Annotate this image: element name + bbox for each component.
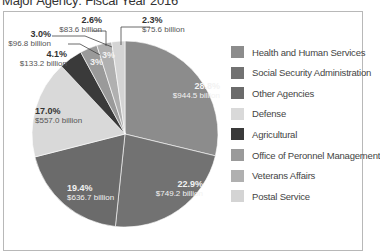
label-ssa: 22.9% $749.2 billion (143, 179, 203, 199)
legend-item-hhs: Health and Human Services (231, 45, 365, 59)
label-agri: 4.1% $133.2 billion (5, 49, 67, 69)
label-va-inner: 3% (102, 48, 115, 60)
label-postal: 2.3% $75.6 billion (142, 15, 185, 35)
label-opm-value: $96.8 billion (3, 39, 51, 49)
legend-swatch (231, 190, 244, 202)
legend-swatch (231, 108, 244, 120)
legend-swatch (231, 46, 244, 58)
label-defense: 17.0% $557.0 billion (35, 106, 82, 126)
legend-swatch (231, 87, 244, 99)
label-va-value: $83.6 billion (52, 25, 102, 35)
label-other: 19.4% $636.7 billion (67, 183, 114, 203)
legend-item-va: Veterans Affairs (231, 169, 315, 183)
legend-swatch (231, 67, 244, 79)
legend-item-other: Other Agencies (231, 86, 314, 100)
label-other-value: $636.7 billion (67, 193, 114, 203)
legend-swatch (231, 170, 244, 182)
label-ssa-percent: 22.9% (143, 179, 203, 189)
label-hhs-value: $944.5 billion (163, 91, 220, 101)
label-postal-percent: 2.3% (142, 15, 185, 25)
legend-item-postal: Postal Service (231, 189, 310, 203)
label-other-percent: 19.4% (67, 183, 114, 193)
legend-item-ssa: Social Security Administration (231, 66, 371, 80)
label-agri-percent: 4.1% (5, 49, 67, 59)
legend-swatch (231, 128, 244, 140)
legend-item-defense: Defense (231, 107, 286, 121)
label-agri-value: $133.2 billion (5, 59, 67, 69)
label-hhs-percent: 28.8% (163, 81, 220, 91)
label-defense-percent: 17.0% (35, 106, 82, 116)
label-hhs: 28.8% $944.5 billion (163, 81, 220, 101)
label-va-percent: 2.6% (52, 15, 102, 25)
label-opm: 3.0% $96.8 billion (3, 29, 51, 49)
label-defense-value: $557.0 billion (35, 116, 82, 126)
label-opm-percent: 3.0% (3, 29, 51, 39)
label-ssa-value: $749.2 billion (143, 189, 203, 199)
label-va: 2.6% $83.6 billion (52, 15, 102, 35)
legend-item-agri: Agricultural (231, 127, 297, 141)
legend-swatch (231, 149, 244, 161)
label-postal-value: $75.6 billion (142, 25, 185, 35)
legend-item-opm: Office of Peronnel Management (231, 148, 380, 162)
